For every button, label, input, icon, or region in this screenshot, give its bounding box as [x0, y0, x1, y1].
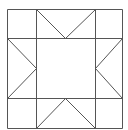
right-point-bottom-line	[96, 69, 123, 99]
left-point-top-line	[8, 39, 37, 69]
top-point-left-line	[37, 10, 66, 39]
quilt-block-diagram	[0, 0, 128, 130]
bottom-point-left-line	[37, 99, 66, 129]
left-point-bottom-line	[8, 69, 37, 99]
bottom-point-right-line	[66, 99, 96, 129]
right-point-top-line	[96, 39, 123, 69]
top-point-right-line	[66, 10, 96, 39]
